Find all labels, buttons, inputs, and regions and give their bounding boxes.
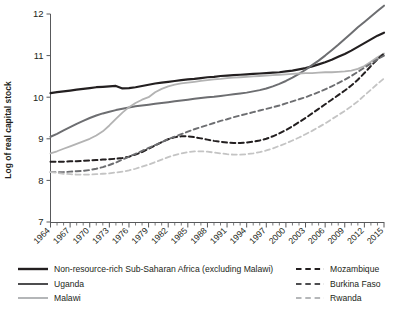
- y-axis-title: Log of real capital stock: [3, 81, 13, 179]
- x-tick-label: 2006: [306, 225, 327, 246]
- legend-label: Mozambique: [330, 264, 379, 274]
- x-tick-label: 2009: [326, 225, 347, 246]
- x-tick-label: 1994: [227, 225, 248, 246]
- x-axis-tick-labels: 1964196719701973197619791982198519881991…: [31, 225, 385, 246]
- x-tick-label: 1970: [71, 225, 92, 246]
- series-line: [51, 54, 385, 162]
- x-tick-label: 1973: [90, 225, 111, 246]
- legend-label: Non-resource-rich Sub-Saharan Africa (ex…: [54, 264, 273, 274]
- series-line: [51, 33, 385, 93]
- x-tick-label: 1967: [51, 225, 72, 246]
- x-tick-label: 2012: [345, 225, 366, 246]
- legend-label: Uganda: [54, 279, 84, 289]
- x-tick-label: 2000: [267, 225, 288, 246]
- y-tick-label: 12: [33, 8, 44, 19]
- x-tick-label: 1985: [169, 225, 190, 246]
- chart-legend: Non-resource-rich Sub-Saharan Africa (ex…: [18, 264, 381, 303]
- x-tick-label: 2003: [286, 225, 307, 246]
- series-line: [51, 54, 385, 154]
- legend-label: Burkina Faso: [330, 279, 381, 289]
- y-tick-label: 8: [38, 175, 43, 186]
- legend-label: Rwanda: [330, 293, 362, 303]
- data-series-group: [51, 6, 385, 175]
- chart-figure: Log of real capital stock 789101112 1964…: [0, 0, 398, 320]
- y-tick-label: 10: [33, 92, 44, 103]
- y-axis-ticks: 789101112: [33, 8, 51, 227]
- y-tick-label: 11: [34, 50, 44, 61]
- x-tick-label: 1997: [247, 225, 268, 246]
- x-tick-label: 1982: [149, 225, 170, 246]
- x-tick-label: 1991: [208, 225, 229, 246]
- x-tick-label: 2015: [365, 225, 386, 246]
- x-tick-label: 1976: [110, 225, 131, 246]
- x-tick-label: 1988: [188, 225, 209, 246]
- x-tick-label: 1979: [129, 225, 150, 246]
- y-tick-label: 7: [38, 216, 43, 227]
- y-tick-label: 9: [38, 133, 43, 144]
- line-chart: Log of real capital stock 789101112 1964…: [0, 0, 398, 320]
- legend-label: Malawi: [54, 293, 81, 303]
- x-tick-label: 1964: [31, 225, 52, 246]
